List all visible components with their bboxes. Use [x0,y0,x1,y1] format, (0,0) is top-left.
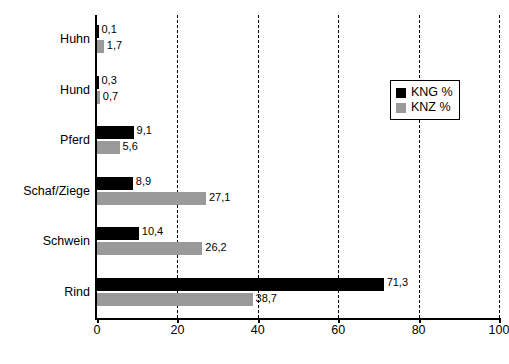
gridline [499,15,500,318]
category-label: Schwein [43,234,90,248]
bar-value-label: 27,1 [209,192,230,203]
bar-value-label: 1,7 [107,40,122,51]
bar-kng [97,177,133,190]
bar-kng [97,25,99,38]
bar-knz [97,141,120,154]
category-label: Schaf/Ziege [23,184,90,198]
bar-value-label: 0,7 [103,91,118,102]
bar-value-label: 26,2 [205,242,226,253]
bar-value-label: 0,3 [102,75,117,86]
legend-label-knz: KNZ % [411,101,451,114]
x-tick-label: 100 [489,323,509,337]
category-row: Rind71,338,7 [97,268,499,319]
x-tick-label: 80 [412,323,426,337]
category-label: Rind [64,285,90,299]
bar-knz [97,242,202,255]
x-tick-label: 40 [251,323,265,337]
category-row: Huhn0,11,7 [97,15,499,66]
bar-value-label: 38,7 [256,293,277,304]
bar-value-label: 10,4 [142,226,163,237]
plot-area: 020406080100Huhn0,11,7Hund0,30,7Pferd9,1… [95,15,499,320]
bar-chart: 020406080100Huhn0,11,7Hund0,30,7Pferd9,1… [0,0,509,364]
bar-knz [97,192,206,205]
bar-kng [97,278,384,291]
bar-knz [97,40,104,53]
chart-legend: KNG % KNZ % [390,80,460,120]
bar-knz [97,293,253,306]
x-tick-label: 20 [170,323,184,337]
bar-value-label: 0,1 [102,24,117,35]
x-tick-label: 60 [331,323,345,337]
x-tick-label: 0 [94,323,101,337]
bar-knz [97,91,100,104]
legend-swatch-kng [396,88,406,98]
bar-kng [97,126,134,139]
bar-value-label: 8,9 [136,176,151,187]
bar-kng [97,76,99,89]
category-label: Hund [60,83,90,97]
legend-item-kng: KNG % [396,85,453,100]
category-row: Schaf/Ziege8,927,1 [97,167,499,218]
bar-kng [97,227,139,240]
legend-label-kng: KNG % [411,86,453,99]
category-row: Schwein10,426,2 [97,217,499,268]
category-row: Pferd9,15,6 [97,116,499,167]
legend-swatch-knz [396,103,406,113]
category-label: Huhn [60,32,90,46]
bar-value-label: 5,6 [123,141,138,152]
bar-value-label: 9,1 [137,125,152,136]
category-label: Pferd [60,133,90,147]
legend-item-knz: KNZ % [396,100,453,115]
bar-value-label: 71,3 [387,277,408,288]
